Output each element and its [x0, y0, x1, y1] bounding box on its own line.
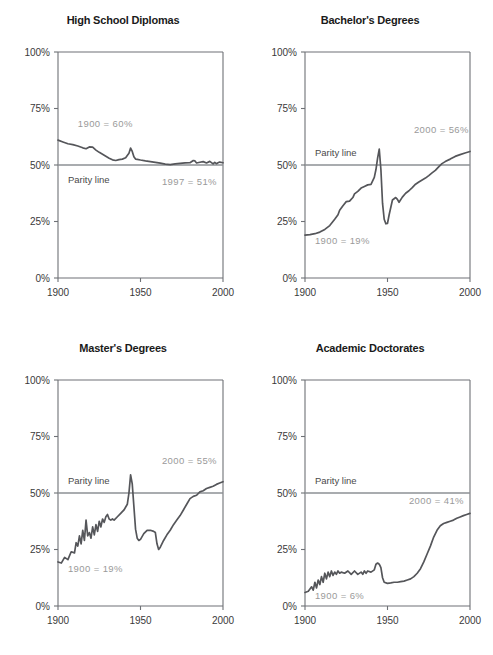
x-tick-label: 2000 [212, 615, 235, 626]
chart-canvas-masters-degrees: 0%25%50%75%100%1900195020002000 = 55%Par… [0, 328, 246, 655]
y-tick-label: 25% [30, 544, 50, 555]
value-annotation: 2000 = 55% [162, 455, 217, 466]
chart-panel-high-school-diplomas: High School Diplomas0%25%50%75%100%19001… [0, 0, 246, 327]
x-tick-label: 1900 [47, 615, 70, 626]
y-tick-label: 100% [271, 47, 297, 58]
chart-panel-bachelors-degrees: Bachelor's Degrees0%25%50%75%100%1900195… [247, 0, 493, 327]
x-tick-label: 1900 [294, 287, 317, 298]
data-series-line [58, 475, 223, 563]
parity-line-label: Parity line [68, 475, 110, 486]
y-tick-label: 100% [271, 375, 297, 386]
y-tick-label: 75% [277, 103, 297, 114]
chart-panel-academic-doctorates: Academic Doctorates0%25%50%75%100%190019… [247, 328, 493, 655]
y-tick-label: 50% [30, 160, 50, 171]
y-tick-label: 0% [283, 601, 298, 612]
chart-canvas-high-school-diplomas: 0%25%50%75%100%1900195020001900 = 60%Par… [0, 0, 246, 327]
data-series-line [305, 513, 470, 592]
x-tick-label: 2000 [459, 615, 482, 626]
y-tick-label: 0% [283, 273, 298, 284]
chart-canvas-academic-doctorates: 0%25%50%75%100%190019502000Parity line20… [247, 328, 493, 655]
value-annotation: 1997 = 51% [162, 176, 217, 187]
data-series-line [58, 140, 223, 164]
figure-panel-grid: High School Diplomas0%25%50%75%100%19001… [0, 0, 493, 655]
x-tick-label: 1900 [47, 287, 70, 298]
x-tick-label: 1950 [376, 287, 399, 298]
value-annotation: 1900 = 19% [68, 563, 123, 574]
y-tick-label: 50% [277, 488, 297, 499]
value-annotation: 1900 = 60% [78, 118, 133, 129]
y-tick-label: 25% [277, 544, 297, 555]
x-tick-label: 2000 [212, 287, 235, 298]
value-annotation: 2000 = 41% [409, 495, 464, 506]
value-annotation: 2000 = 56% [414, 124, 469, 135]
x-tick-label: 1950 [129, 287, 152, 298]
chart-panel-masters-degrees: Master's Degrees0%25%50%75%100%190019502… [0, 328, 246, 655]
y-tick-label: 50% [30, 488, 50, 499]
y-tick-label: 75% [30, 431, 50, 442]
x-tick-label: 2000 [459, 287, 482, 298]
parity-line-label: Parity line [315, 147, 357, 158]
value-annotation: 1900 = 6% [315, 590, 364, 601]
y-tick-label: 75% [277, 431, 297, 442]
parity-line-label: Parity line [315, 475, 357, 486]
value-annotation: 1900 = 19% [315, 235, 370, 246]
y-tick-label: 100% [24, 375, 50, 386]
y-tick-label: 0% [36, 273, 51, 284]
parity-line-label: Parity line [68, 174, 110, 185]
y-tick-label: 50% [277, 160, 297, 171]
x-tick-label: 1950 [129, 615, 152, 626]
y-tick-label: 100% [24, 47, 50, 58]
x-tick-label: 1950 [376, 615, 399, 626]
chart-canvas-bachelors-degrees: 0%25%50%75%100%1900195020002000 = 56%Par… [247, 0, 493, 327]
y-tick-label: 75% [30, 103, 50, 114]
data-series-line [305, 149, 470, 235]
x-tick-label: 1900 [294, 615, 317, 626]
y-tick-label: 25% [277, 216, 297, 227]
y-tick-label: 0% [36, 601, 51, 612]
y-tick-label: 25% [30, 216, 50, 227]
